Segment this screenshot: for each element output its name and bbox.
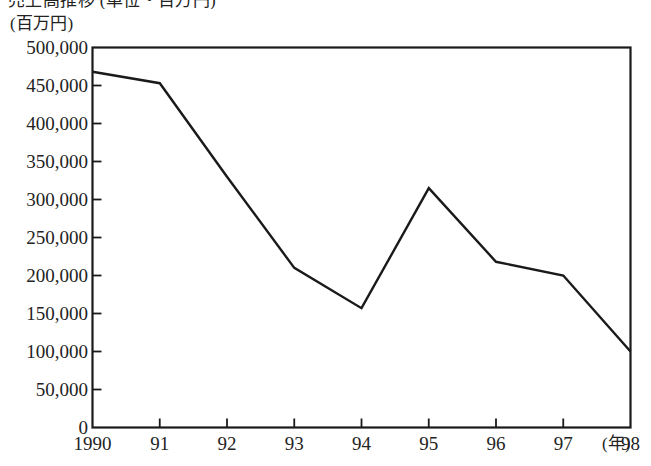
x-tick-label: 92 bbox=[218, 433, 237, 455]
line-chart bbox=[0, 0, 651, 466]
plot-frame bbox=[93, 48, 631, 428]
y-tick-label: 100,000 bbox=[2, 342, 88, 361]
y-tick-label: 350,000 bbox=[2, 152, 88, 171]
y-tick-label: 200,000 bbox=[2, 266, 88, 285]
x-tick-label: 97 bbox=[554, 433, 573, 455]
y-tick-label: 150,000 bbox=[2, 304, 88, 323]
x-tick-label: 93 bbox=[285, 433, 304, 455]
y-tick-label: 300,000 bbox=[2, 190, 88, 209]
x-tick-label: 94 bbox=[352, 433, 371, 455]
y-tick-label: 400,000 bbox=[2, 114, 88, 133]
x-tick-label: 1990 bbox=[74, 433, 112, 455]
chart-svg bbox=[0, 0, 651, 466]
y-tick-label: 50,000 bbox=[2, 380, 88, 399]
x-tick-label: 96 bbox=[487, 433, 506, 455]
y-tick-label: 250,000 bbox=[2, 228, 88, 247]
x-axis-unit-label: (年) bbox=[602, 433, 630, 455]
y-tick-label: 450,000 bbox=[2, 76, 88, 95]
y-tick-label: 500,000 bbox=[2, 38, 88, 57]
x-tick-label: 91 bbox=[150, 433, 169, 455]
y-axis-tick-labels: 500,000450,000400,000350,000300,000250,0… bbox=[0, 0, 88, 466]
x-tick-label: 95 bbox=[419, 433, 438, 455]
x-axis-tick-labels: 19909192939495969798 bbox=[0, 433, 651, 463]
